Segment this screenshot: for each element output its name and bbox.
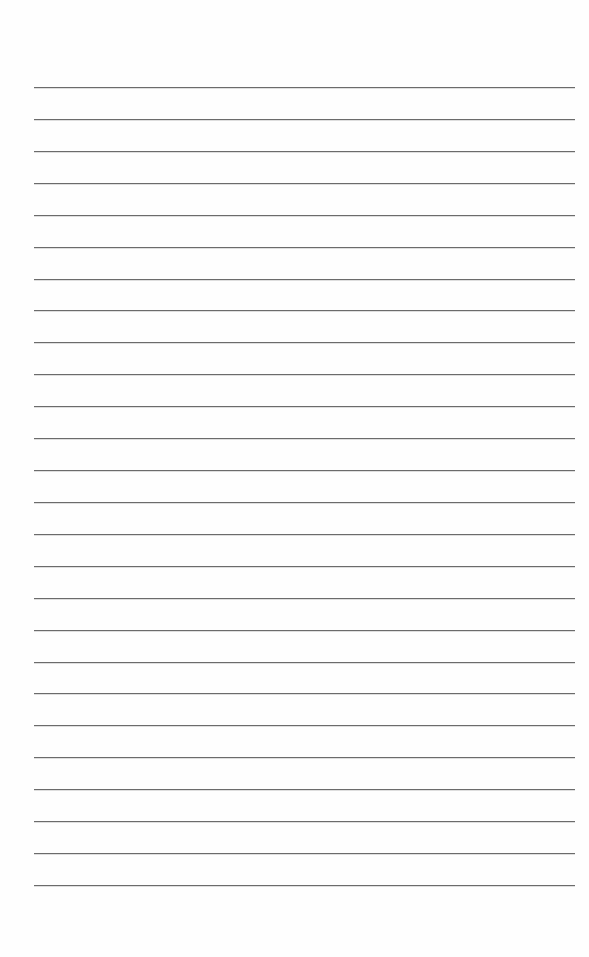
- ruled-line: [34, 310, 575, 311]
- ruled-line: [34, 630, 575, 631]
- ruled-line: [34, 342, 575, 343]
- ruled-line: [34, 87, 575, 88]
- ruled-line: [34, 151, 575, 152]
- ruled-line: [34, 119, 575, 120]
- ruled-line: [34, 215, 575, 216]
- ruled-line: [34, 853, 575, 854]
- ruled-line: [34, 374, 575, 375]
- ruled-line: [34, 789, 575, 790]
- ruled-line: [34, 183, 575, 184]
- ruled-line: [34, 693, 575, 694]
- ruled-line: [34, 725, 575, 726]
- ruled-line: [34, 534, 575, 535]
- ruled-line: [34, 566, 575, 567]
- ruled-line: [34, 470, 575, 471]
- ruled-line: [34, 502, 575, 503]
- ruled-line: [34, 406, 575, 407]
- ruled-line: [34, 757, 575, 758]
- ruled-line: [34, 821, 575, 822]
- ruled-line: [34, 247, 575, 248]
- lined-page: [0, 0, 589, 957]
- ruled-line: [34, 662, 575, 663]
- ruled-line: [34, 598, 575, 599]
- ruled-line: [34, 279, 575, 280]
- ruled-line: [34, 438, 575, 439]
- ruled-line: [34, 885, 575, 886]
